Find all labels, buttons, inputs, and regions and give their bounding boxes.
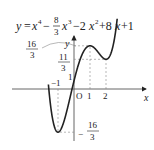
y-axis-label: y — [64, 38, 70, 49]
eq-term-x3: x — [61, 19, 68, 33]
function-curve — [48, 19, 117, 132]
eq-frac-den: 3 — [54, 27, 59, 37]
eq-lhs: y — [15, 19, 22, 33]
x-tick-2: 2 — [103, 91, 108, 101]
local-min2-den: 3 — [61, 63, 66, 73]
eq-equals: = — [24, 19, 31, 33]
eq-exp-3: 3 — [68, 18, 72, 26]
min-value-num: 16 — [88, 120, 98, 130]
eq-minus-2: −2 — [73, 19, 86, 33]
local-min2-num: 11 — [59, 52, 68, 62]
x-tick-neg1: −1 — [51, 78, 61, 88]
origin-label: O — [76, 91, 83, 101]
max-value-num: 16 — [27, 39, 37, 49]
eq-minus: − — [43, 19, 50, 33]
max-label-pointer — [42, 42, 76, 48]
function-graph: y = x 4 − 8 3 x 3 −2 x 2 +8 x +1 x y O 1… — [0, 0, 154, 150]
min-value-sign: − — [78, 129, 83, 139]
min-value-den: 3 — [90, 132, 95, 142]
eq-term-x2: x — [88, 19, 95, 33]
eq-term-x4: x — [31, 19, 38, 33]
x-tick-1: 1 — [87, 91, 92, 101]
eq-exp-4: 4 — [38, 18, 42, 26]
eq-plus-8: +8 — [99, 19, 112, 33]
eq-frac-num: 8 — [54, 15, 59, 25]
x-axis-label: x — [143, 92, 149, 103]
max-value-den: 3 — [30, 50, 35, 60]
eq-plus-1: +1 — [121, 19, 134, 33]
y-intercept-label: 1 — [68, 72, 73, 82]
